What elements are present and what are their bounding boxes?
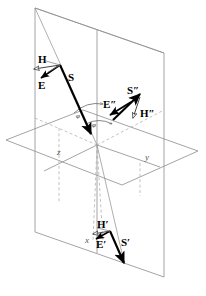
- magnetic-field-transmitted-label: H′: [97, 219, 109, 230]
- poynting-vector-incident-arrow: [60, 65, 91, 134]
- magnetic-field-reflected-label: H″: [140, 108, 155, 119]
- angle-of-reflection-label: φ: [92, 122, 96, 129]
- electric-field-transmitted-label: E′: [96, 239, 106, 250]
- poynting-vector-reflected-arrow: [113, 94, 140, 120]
- incident-wave-vectors: [34, 61, 91, 134]
- electric-field-incident-label: E: [38, 80, 45, 91]
- poynting-vector-reflected-label: S″: [127, 85, 139, 96]
- angle-of-incidence-label: φ: [76, 113, 80, 120]
- poynting-vector-incident-label: S: [68, 72, 74, 83]
- optics-reflection-refraction-figure: S E H S″ E″ H″ S′ E′ H′ z y x φ φ: [0, 0, 206, 296]
- z-axis-label: z: [57, 148, 61, 157]
- x-axis-label: x: [85, 236, 89, 245]
- figure-canvas: [0, 0, 206, 296]
- y-axis-label: y: [145, 153, 149, 162]
- electric-field-reflected-label: E″: [103, 99, 116, 110]
- magnetic-field-incident-label: H: [38, 54, 47, 65]
- poynting-vector-transmitted-label: S′: [121, 237, 130, 248]
